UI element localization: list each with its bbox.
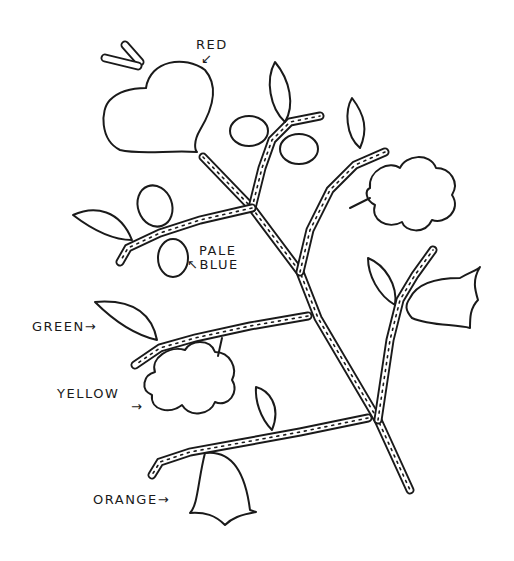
label-pale-blue: PALE ↖ BLUE [197, 244, 239, 272]
oval-bud-upper [132, 180, 178, 231]
scalloped-flower-right-stalk [350, 198, 370, 208]
arrow-icon: ↖ [187, 258, 199, 272]
label-red-arrow: ↙ [201, 52, 213, 66]
green-leaf [95, 302, 157, 340]
embroidery-pattern [0, 0, 514, 561]
scalloped-flower-right [367, 157, 455, 230]
label-orange: ORANGE→ [93, 493, 170, 507]
leaf-left-upper [73, 210, 132, 240]
label-yellow: YELLOW [57, 387, 119, 401]
label-red-text: RED [196, 37, 228, 52]
upper-clover [230, 62, 318, 164]
leaf-centre-small [256, 387, 276, 430]
arrow-icon: → [131, 399, 143, 414]
label-red: RED [196, 38, 228, 52]
arrow-icon: → [85, 319, 97, 334]
label-pale-blue-line2-row: ↖ BLUE [197, 258, 239, 272]
pale-blue-oval-bud [158, 239, 188, 277]
label-yellow-arrow: → [131, 400, 143, 414]
leaf-top-right [347, 98, 364, 148]
label-pale-blue-line1: PALE [197, 244, 239, 258]
label-green-text: GREEN [32, 319, 85, 334]
orange-bell-flower [190, 453, 256, 525]
label-yellow-text: YELLOW [57, 386, 119, 401]
right-stem [378, 250, 433, 420]
upper-right-stem [300, 152, 385, 272]
left-branch-lower [152, 418, 368, 475]
arrow-icon: → [158, 492, 170, 507]
label-green: GREEN→ [32, 320, 97, 334]
arrow-icon: ↙ [201, 51, 213, 66]
label-pale-blue-line2: BLUE [199, 258, 238, 272]
heart-stems [105, 45, 140, 66]
red-heart-flower [103, 62, 213, 153]
stems [105, 45, 433, 490]
leaf-right-middle [368, 258, 395, 305]
label-orange-text: ORANGE [93, 492, 158, 507]
